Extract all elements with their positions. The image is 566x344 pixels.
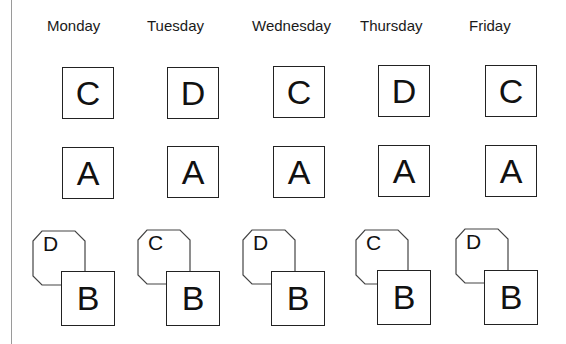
octagon-label: C — [366, 231, 381, 255]
day-label-thursday: Thursday — [360, 17, 423, 34]
card-wednesday-row1: C — [273, 66, 325, 118]
card-thursday-row3-front: B — [377, 270, 431, 325]
day-label-wednesday: Wednesday — [252, 17, 331, 34]
octagon-label: D — [43, 232, 58, 256]
card-thursday-row1: D — [378, 65, 430, 117]
octagon-label: C — [148, 231, 163, 255]
octagon-label: D — [466, 230, 481, 254]
card-monday-row3-front: B — [61, 271, 115, 326]
left-border-line — [11, 0, 12, 344]
card-monday-row1: C — [62, 67, 114, 119]
card-tuesday-row2: A — [167, 146, 219, 198]
day-label-tuesday: Tuesday — [147, 17, 204, 34]
card-tuesday-row1: D — [167, 67, 219, 119]
card-friday-row1: C — [485, 65, 537, 117]
card-wednesday-row3-front: B — [271, 271, 325, 326]
card-wednesday-row2: A — [273, 146, 325, 198]
card-monday-row2: A — [62, 147, 114, 199]
card-friday-row2: A — [485, 145, 537, 197]
day-label-friday: Friday — [469, 17, 511, 34]
day-label-monday: Monday — [47, 17, 100, 34]
card-friday-row3-front: B — [484, 270, 538, 325]
card-thursday-row2: A — [378, 145, 430, 197]
octagon-label: D — [253, 231, 268, 255]
card-tuesday-row3-front: B — [166, 271, 220, 326]
